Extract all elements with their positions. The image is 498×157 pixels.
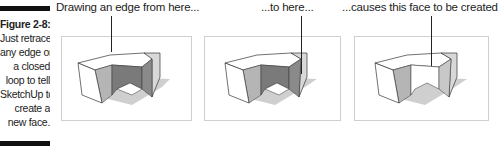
panel-1-frame: [61, 36, 192, 121]
caption-line: loop to tell: [0, 73, 50, 87]
l-shaped-solid-illustration: [355, 37, 488, 120]
caption-line: a closed: [0, 59, 50, 73]
panel-3-leader-line: [431, 16, 432, 66]
panel-2-label: ...to here...: [261, 1, 313, 14]
caption-bar-bottom: [0, 141, 50, 146]
caption-line: create a: [0, 101, 50, 115]
caption-line: new face.: [0, 115, 50, 129]
panel-2-leader-line: [301, 16, 302, 74]
panel-2-frame: [204, 36, 341, 121]
caption-bar-top: [0, 6, 50, 11]
panel-3-label: ...causes this face to be created: [342, 1, 498, 14]
panel-3-frame: [354, 36, 489, 121]
caption-line: SketchUp to: [0, 87, 50, 101]
panel-1-leader-line: [111, 16, 112, 52]
l-shaped-solid-illustration: [62, 37, 191, 120]
figure-caption: Figure 2-8: Just retrace any edge on a c…: [0, 17, 50, 129]
panel-1-label: Drawing an edge from here...: [56, 1, 199, 14]
caption-line: any edge on: [0, 45, 50, 59]
caption-line: Just retrace: [0, 31, 50, 45]
figure-number: Figure 2-8:: [0, 17, 50, 31]
l-shaped-solid-illustration: [205, 37, 340, 120]
